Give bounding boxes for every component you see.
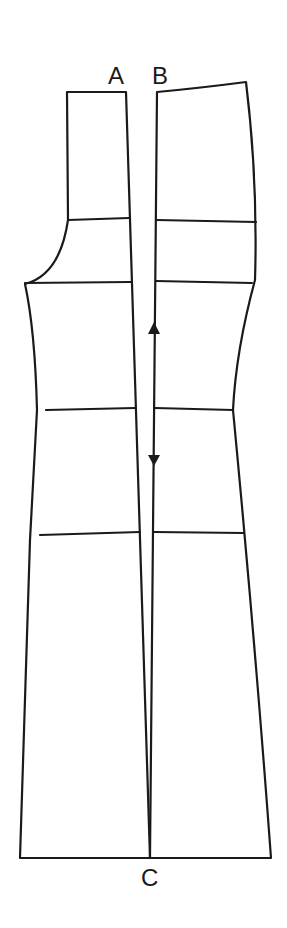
right-panel-outline [150,82,271,858]
arrow-down-icon [148,455,160,466]
left-hline-4 [40,532,140,535]
right-hline-1 [157,220,256,222]
arrow-up-icon [148,322,160,334]
pattern-diagram: A B C [0,0,287,928]
left-panel [20,92,150,858]
label-c: C [141,864,158,891]
right-hline-3 [155,408,233,410]
left-panel-outline [20,92,150,858]
right-hline-2 [156,281,252,283]
left-hline-2 [25,282,131,283]
right-hline-4 [154,532,244,533]
label-b: B [152,62,168,89]
left-hline-3 [46,408,135,410]
right-panel [150,82,271,858]
label-a: A [108,62,124,89]
left-hline-1 [68,218,129,220]
